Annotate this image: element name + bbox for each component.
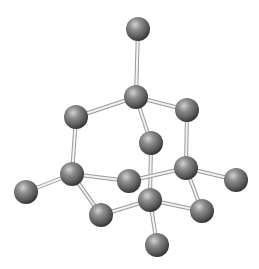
atom-a4 bbox=[175, 98, 199, 122]
atom-a3 bbox=[64, 105, 88, 129]
atom-a2 bbox=[124, 85, 148, 109]
atom-a14 bbox=[145, 233, 169, 257]
atom-a10 bbox=[224, 168, 248, 192]
atom-a6 bbox=[60, 162, 84, 186]
atom-a11 bbox=[138, 188, 162, 212]
atom-a9 bbox=[117, 169, 141, 193]
atom-a5 bbox=[139, 131, 163, 155]
atom-a12 bbox=[89, 203, 113, 227]
molecule-diagram bbox=[0, 0, 259, 269]
atom-a1 bbox=[126, 17, 150, 41]
molecule-canvas bbox=[0, 0, 259, 269]
atom-a7 bbox=[174, 156, 198, 180]
atom-layer bbox=[14, 17, 248, 257]
atom-a13 bbox=[190, 199, 214, 223]
atom-a8 bbox=[14, 180, 38, 204]
